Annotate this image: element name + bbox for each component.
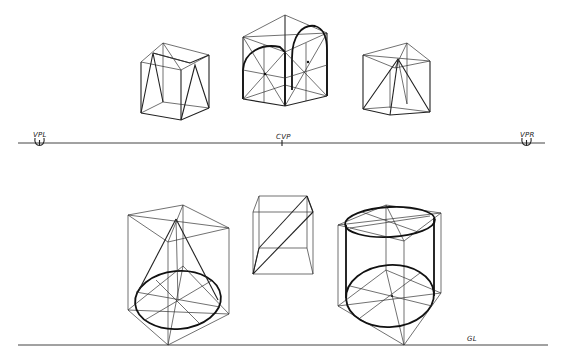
- vpl-marker-icon: [35, 138, 44, 146]
- vpl-label: VPL: [33, 131, 47, 139]
- vpr-label: VPR: [520, 131, 535, 139]
- cube-with-inclined-plane: [253, 196, 313, 274]
- cube-with-inclined-planes: [141, 43, 209, 120]
- cvp-label: CVP: [276, 133, 291, 141]
- cube-with-pyramid: [363, 43, 430, 115]
- cube-with-cone: [128, 205, 229, 345]
- perspective-drawing: VPL CVP VPR GL: [0, 0, 563, 359]
- cube-with-cylinder: [338, 205, 441, 345]
- vpr-marker-icon: [522, 138, 531, 146]
- cube-with-arches: [243, 15, 327, 106]
- gl-label: GL: [467, 335, 477, 343]
